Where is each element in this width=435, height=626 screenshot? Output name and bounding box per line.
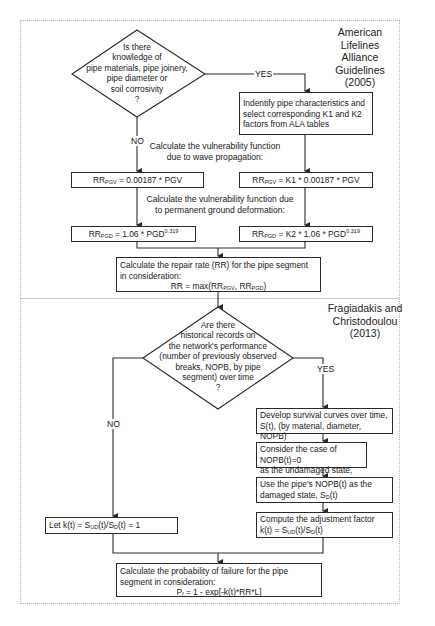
- formula-part: = K1 * 0.00187 * PGV: [276, 175, 360, 185]
- decision-line: soil corrosivity: [82, 84, 192, 94]
- formula-sub: PGV: [105, 179, 117, 185]
- decision-line: pipe materials, pipe joinery,: [82, 63, 192, 73]
- label-line: due to wave propagation:: [140, 152, 290, 163]
- undamaged-state-box: Consider the case of NOPB(t)=0 as the un…: [256, 442, 367, 468]
- formula-part: RR: [89, 229, 101, 239]
- decision1-text: Is there knowledge of pipe materials, pi…: [82, 42, 192, 104]
- formula-part: RR: [93, 175, 105, 185]
- formula: RRPGD = K2 * 1.06 * PGD0.319: [252, 229, 360, 240]
- section2-title: Fragiadakis and Christodoulou (2013): [325, 302, 405, 340]
- yes-label-1: YES: [254, 69, 273, 79]
- label-line: to permanent ground deformation:: [140, 205, 300, 216]
- formula-sub: PGD: [101, 233, 113, 239]
- formula-sub: PGD: [264, 233, 276, 239]
- formula-sub: PGD: [252, 285, 264, 291]
- box-line: Compute the adjustment factor: [260, 514, 389, 525]
- wave-propagation-label: Calculate the vulnerability function due…: [140, 141, 290, 162]
- decision-line: breaks, NOPB, by pipe: [153, 362, 283, 372]
- box-line: factors from ALA tables: [243, 119, 369, 130]
- decision-line: (number of previously observed: [153, 351, 283, 361]
- formula-part: Let k(t) = S: [49, 520, 90, 530]
- text-part: (t): [330, 490, 338, 500]
- rr-pgv-box-right: RRPGV = K1 * 0.00187 * PGV: [239, 172, 373, 188]
- probability-of-failure-box: Calculate the probability of failure for…: [116, 563, 322, 597]
- identify-pipe-box: Indentify pipe characteristics and selec…: [239, 92, 373, 135]
- formula-part: = 1.06 * PGD: [113, 229, 165, 239]
- yes-label-2: YES: [316, 364, 335, 374]
- ground-deformation-label: Calculate the vulnerability function due…: [140, 194, 300, 215]
- formula-part: ): [263, 281, 266, 291]
- title-line: (2013): [325, 327, 405, 340]
- formula-part: = K2 * 1.06 * PGD: [276, 229, 346, 239]
- decision-line: pipe diameter or: [82, 73, 192, 83]
- formula-part: (t)/S: [295, 525, 311, 535]
- rr-pgv-box-left: RRPGV = 0.00187 * PGV: [71, 172, 204, 188]
- survival-curves-box: Develop survival curves over time, S(t),…: [256, 408, 393, 434]
- title-line: Fragiadakis and: [325, 302, 405, 315]
- box-line: Use the pipe's NOPB(t) as the: [260, 479, 389, 490]
- formula: RRPGV = 0.00187 * PGV: [93, 175, 182, 186]
- formula-sub: UD: [90, 524, 98, 530]
- formula-sub: PGV: [264, 179, 276, 185]
- formula-part: RR: [252, 175, 264, 185]
- box-line: select corresponding K1 and K2: [243, 109, 369, 120]
- formula-part: k(t) = S: [260, 525, 287, 535]
- formula-sub: PGV: [223, 285, 235, 291]
- decision-line: the network's performance: [153, 341, 283, 351]
- section1-title: American Lifelines Alliance Guidelines (…: [320, 26, 400, 89]
- formula-sub: UD: [287, 529, 295, 535]
- box-line: Calculate the probability of failure for…: [120, 566, 318, 577]
- title-line: American Lifelines: [320, 26, 400, 51]
- box-line: Develop survival curves over time,: [260, 410, 389, 421]
- box-line: Indentify pipe characteristics and: [243, 98, 369, 109]
- formula-sup: 0.319: [165, 228, 179, 234]
- box-line: segment in consideration:: [120, 577, 318, 588]
- formula-part: RR = max(RR: [171, 281, 223, 291]
- label-line: Calculate the vulnerability function: [140, 141, 290, 152]
- decision-line: segment) over time: [153, 372, 283, 382]
- box-line: Consider the case of NOPB(t)=0: [260, 444, 363, 465]
- text-part: damaged state, S: [260, 490, 326, 500]
- decision-line: Are there: [153, 320, 283, 330]
- adjustment-formula: k(t) = SUD(t)/SD(t): [260, 525, 389, 536]
- formula: RRPGV = K1 * 0.00187 * PGV: [252, 175, 359, 186]
- decision2-text: Are there historical records on the netw…: [153, 320, 283, 393]
- repair-rate-box: Calculate the repair rate (RR) for the p…: [116, 257, 321, 292]
- decision-line: Is there: [82, 42, 192, 52]
- decision-line: historical records on: [153, 330, 283, 340]
- formula-part: RR: [252, 229, 264, 239]
- formula-part: (t) = 1: [118, 520, 140, 530]
- repair-rate-formula: RR = max(RRPGV, RRPGD): [120, 281, 317, 292]
- decision-line: ?: [153, 382, 283, 392]
- formula-part: (t): [315, 525, 323, 535]
- formula-sup: 0.319: [346, 228, 360, 234]
- formula-part: = 0.00187 * PGV: [117, 175, 182, 185]
- box-line: Calculate the repair rate (RR) for the p…: [120, 260, 317, 271]
- box-line: S(t), (by material, diameter, NOPB): [260, 421, 389, 442]
- decision-line: ?: [82, 94, 192, 104]
- formula-part: (t)/S: [98, 520, 114, 530]
- let-k-formula: Let k(t) = SUD(t)/SD(t) = 1: [49, 520, 140, 531]
- decision-line: knowledge of: [82, 52, 192, 62]
- title-line: Guidelines (2005): [320, 64, 400, 89]
- rr-pgd-box-left: RRPGD = 1.06 * PGD0.319: [71, 226, 196, 242]
- failure-formula: Pf = 1 - exp[-k(t)*RR*L]: [120, 587, 318, 598]
- damaged-state-box: Use the pipe's NOPB(t) as the damaged st…: [256, 477, 393, 503]
- formula-part: = 1 - exp[-k(t)*RR*L]: [184, 587, 262, 597]
- title-line: Alliance: [320, 51, 400, 64]
- let-k-box: Let k(t) = SUD(t)/SD(t) = 1: [45, 517, 178, 534]
- box-line: in consideration:: [120, 271, 317, 282]
- title-line: Christodoulou: [325, 315, 405, 328]
- label-line: Calculate the vulnerability function due: [140, 194, 300, 205]
- no-label-2: NO: [106, 419, 121, 429]
- rr-pgd-box-right: RRPGD = K2 * 1.06 * PGD0.319: [239, 226, 373, 242]
- formula-part: , RR: [235, 281, 252, 291]
- adjustment-factor-box: Compute the adjustment factor k(t) = SUD…: [256, 512, 393, 538]
- box-line: damaged state, SD(t): [260, 490, 389, 501]
- formula: RRPGD = 1.06 * PGD0.319: [89, 229, 179, 240]
